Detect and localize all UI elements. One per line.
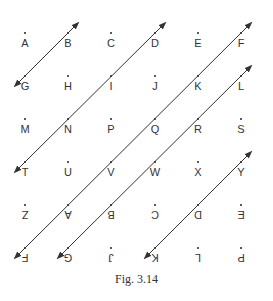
point-dot (154, 247, 156, 249)
point-dot (154, 161, 156, 163)
point-label: J (101, 252, 121, 264)
point-label: J (145, 80, 165, 92)
point-label: D (188, 209, 208, 221)
point-dot (110, 204, 112, 206)
point-label: T (15, 166, 35, 178)
point-dot (110, 118, 112, 120)
point-label: V (101, 166, 121, 178)
point-label: G (58, 252, 78, 264)
point-dot (110, 247, 112, 249)
point-label: M (15, 123, 35, 135)
point-dot (197, 161, 199, 163)
point-dot (24, 247, 26, 249)
figure-caption: Fig. 3.14 (0, 272, 273, 287)
point-label: S (231, 123, 251, 135)
point-dot (67, 32, 69, 34)
point-dot (197, 247, 199, 249)
point-label: G (15, 80, 35, 92)
point-label: Z (15, 209, 35, 221)
point-label: W (145, 166, 165, 178)
point-dot (110, 75, 112, 77)
point-dot (24, 161, 26, 163)
point-dot (67, 161, 69, 163)
point-label: F (15, 252, 35, 264)
point-label: C (145, 209, 165, 221)
point-label: K (188, 80, 208, 92)
point-label: E (231, 209, 251, 221)
point-label: U (58, 166, 78, 178)
point-label: L (188, 252, 208, 264)
point-label: P (101, 123, 121, 135)
point-label: D (145, 37, 165, 49)
point-label: Y (231, 166, 251, 178)
point-dot (154, 75, 156, 77)
point-dot (240, 204, 242, 206)
point-dot (110, 32, 112, 34)
point-dot (67, 75, 69, 77)
point-dot (240, 75, 242, 77)
point-label: F (231, 37, 251, 49)
point-dot (240, 32, 242, 34)
point-dot (24, 118, 26, 120)
point-dot (67, 247, 69, 249)
diagonal-line (14, 22, 165, 172)
point-dot (197, 204, 199, 206)
point-label: A (15, 37, 35, 49)
letter-grid-figure: ABCDEFGHIJKLMNPQRSTUVWXYZABCDEFGJKLP Fig… (0, 0, 273, 301)
point-dot (24, 75, 26, 77)
point-label: P (231, 252, 251, 264)
point-dot (24, 204, 26, 206)
point-label: B (58, 37, 78, 49)
point-label: L (231, 80, 251, 92)
point-dot (67, 118, 69, 120)
point-label: K (145, 252, 165, 264)
point-dot (154, 204, 156, 206)
point-label: X (188, 166, 208, 178)
point-label: R (188, 123, 208, 135)
point-dot (154, 118, 156, 120)
point-dot (197, 118, 199, 120)
point-label: H (58, 80, 78, 92)
point-dot (154, 32, 156, 34)
point-dot (240, 161, 242, 163)
point-dot (197, 32, 199, 34)
point-dot (197, 75, 199, 77)
point-label: Q (145, 123, 165, 135)
point-label: B (101, 209, 121, 221)
point-label: E (188, 37, 208, 49)
diagonal-line (14, 22, 251, 258)
point-label: N (58, 123, 78, 135)
point-label: A (58, 209, 78, 221)
point-label: I (101, 80, 121, 92)
point-dot (110, 161, 112, 163)
point-dot (24, 32, 26, 34)
point-dot (67, 204, 69, 206)
point-dot (240, 118, 242, 120)
point-label: C (101, 37, 121, 49)
point-dot (240, 247, 242, 249)
